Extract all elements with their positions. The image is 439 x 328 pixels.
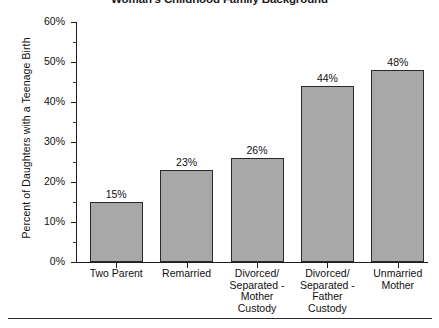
category-label-line: Unmarried <box>363 268 433 280</box>
bar-value-label: 48% <box>387 56 408 68</box>
y-tick-label: 20% <box>25 175 65 187</box>
bar-value-label: 26% <box>246 144 267 156</box>
y-tick-50pct: 50% <box>71 62 77 63</box>
y-minor-tick <box>73 242 77 243</box>
y-minor-tick <box>73 82 77 83</box>
y-tick-label: 40% <box>25 95 65 107</box>
x-axis-category-label: Divorced/Separated -MotherCustody <box>222 268 292 314</box>
category-label-line: Custody <box>222 303 292 315</box>
y-minor-tick <box>73 162 77 163</box>
bar: 48% <box>371 70 424 262</box>
category-label-line: Two Parent <box>81 268 151 280</box>
x-axis-category-label: Remarried <box>151 268 221 280</box>
x-axis-category-label: Divorced/Separated -FatherCustody <box>292 268 362 314</box>
x-axis-category-label: Two Parent <box>81 268 151 280</box>
y-tick-30pct: 30% <box>71 142 77 143</box>
y-tick-label: 30% <box>25 135 65 147</box>
y-tick-20pct: 20% <box>71 182 77 183</box>
category-label-line: Mother <box>363 280 433 292</box>
chart-title-clipped-region: Woman's Childhood Family Background <box>0 0 439 7</box>
category-label-line: Custody <box>292 303 362 315</box>
bar-value-label: 44% <box>317 72 338 84</box>
bar: 26% <box>231 158 284 262</box>
x-axis-category-label: UnmarriedMother <box>363 268 433 291</box>
category-label-line: Divorced/ <box>222 268 292 280</box>
plot-area: 0%10%20%30%40%50%60% 15%23%26%44%48% <box>76 22 428 262</box>
x-axis-line <box>76 262 428 263</box>
category-label-line: Remarried <box>151 268 221 280</box>
y-tick-0pct: 0% <box>71 262 77 263</box>
y-tick-label: 10% <box>25 215 65 227</box>
bar: 23% <box>160 170 213 262</box>
bar: 15% <box>90 202 143 262</box>
bar-value-label: 15% <box>106 188 127 200</box>
y-tick-60pct: 60% <box>71 22 77 23</box>
bar-chart-figure: Woman's Childhood Family Background Perc… <box>0 0 439 328</box>
chart-title: Woman's Childhood Family Background <box>0 0 439 5</box>
bar-value-label: 23% <box>176 156 197 168</box>
category-label-line: Divorced/ <box>292 268 362 280</box>
y-tick-label: 50% <box>25 55 65 67</box>
y-tick-label: 0% <box>25 255 65 267</box>
y-minor-tick <box>73 42 77 43</box>
bar: 44% <box>301 86 354 262</box>
y-tick-10pct: 10% <box>71 222 77 223</box>
y-tick-label: 60% <box>25 15 65 27</box>
y-tick-40pct: 40% <box>71 102 77 103</box>
y-minor-tick <box>73 122 77 123</box>
bottom-divider-rule <box>8 318 432 319</box>
y-minor-tick <box>73 202 77 203</box>
